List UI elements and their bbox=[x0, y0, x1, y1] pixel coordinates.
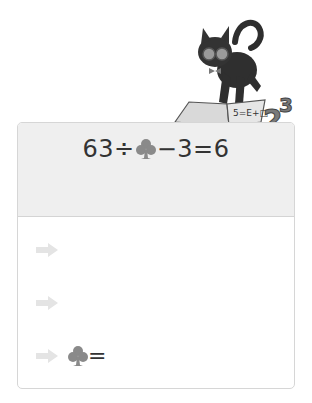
arrow-right-icon bbox=[36, 349, 58, 363]
arrow-right-icon bbox=[36, 296, 58, 310]
answer-equals: = bbox=[88, 343, 106, 368]
problem-card: 63÷ −3=6 bbox=[17, 122, 295, 389]
cat-reading-book-illustration: 5=E+□ 2 3 bbox=[165, 12, 300, 132]
club-icon bbox=[68, 345, 88, 367]
equation: 63÷ −3=6 bbox=[18, 135, 294, 163]
step-row-2 bbox=[36, 296, 58, 310]
club-icon bbox=[136, 138, 156, 160]
step-row-1 bbox=[36, 243, 58, 257]
step-row-3: = bbox=[36, 343, 106, 368]
arrow-right-icon bbox=[36, 243, 58, 257]
svg-text:3: 3 bbox=[279, 93, 293, 117]
answer-line: = bbox=[68, 343, 106, 368]
equation-left: 63÷ bbox=[83, 135, 135, 163]
problem-header: 63÷ −3=6 bbox=[18, 123, 294, 217]
equation-right: −3=6 bbox=[157, 135, 230, 163]
